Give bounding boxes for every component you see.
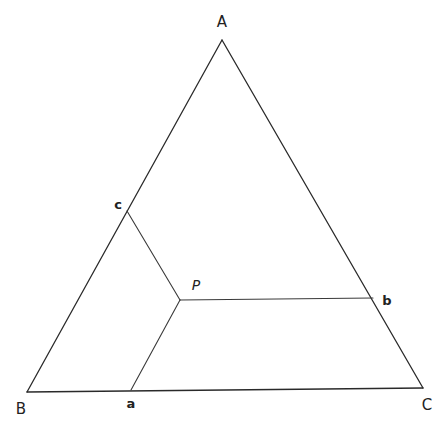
interior-point-label-p: P	[192, 277, 201, 293]
segment-p-to-c	[127, 211, 180, 300]
point-label-c: c	[114, 197, 122, 212]
point-label-a: a	[127, 396, 136, 411]
vertex-label-a: A	[217, 13, 228, 31]
side-bc	[27, 388, 423, 392]
vertex-label-b: B	[16, 400, 26, 418]
side-ca	[222, 40, 423, 388]
side-ab	[27, 40, 222, 392]
ternary-triangle-diagram: A B C c b a P	[0, 0, 448, 426]
segment-p-to-b	[180, 298, 373, 300]
point-label-b: b	[382, 293, 391, 308]
vertex-label-c: C	[422, 396, 432, 414]
segment-p-to-a	[131, 300, 180, 390]
